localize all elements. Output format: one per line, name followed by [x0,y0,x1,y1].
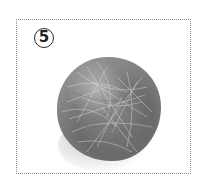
felt-ball-image [57,57,161,161]
fiber-texture [57,57,161,161]
figure-number-label: 5 [34,28,54,48]
